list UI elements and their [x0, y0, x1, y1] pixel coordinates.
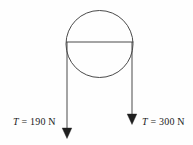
left-arrowhead-icon	[62, 128, 72, 139]
force-label-right: T = 300 N	[142, 117, 185, 127]
pulley-circle	[66, 11, 133, 78]
force-magnitude-right: 300	[159, 116, 175, 127]
force-equals-right: =	[148, 116, 159, 127]
force-unit-left: N	[46, 116, 56, 127]
force-equals-left: =	[19, 116, 30, 127]
physics-figure-pulley-tension: T = 190 N T = 300 N	[0, 0, 193, 145]
force-unit-right: N	[175, 116, 185, 127]
force-magnitude-left: 190	[30, 116, 46, 127]
right-arrowhead-icon	[127, 114, 137, 125]
force-label-left: T = 190 N	[13, 117, 56, 127]
